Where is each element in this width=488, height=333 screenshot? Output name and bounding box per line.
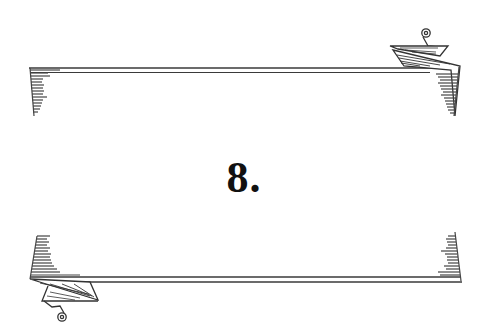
bottom-banner-lines bbox=[30, 277, 462, 282]
bottom-right-hatch-icon bbox=[438, 232, 461, 281]
chapter-number: 8. bbox=[0, 156, 488, 200]
top-banner-lines bbox=[29, 68, 440, 73]
bottom-left-scroll-icon bbox=[30, 279, 98, 321]
top-left-hatch-icon bbox=[30, 68, 60, 116]
bottom-left-hatch-icon bbox=[30, 236, 80, 279]
